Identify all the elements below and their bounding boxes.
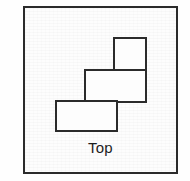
figure-caption: Top (23, 140, 178, 156)
middle-rectangle (85, 70, 146, 102)
screenshot-canvas: Top (0, 0, 190, 181)
lower-left-rectangle (56, 101, 117, 131)
upper-right-square (114, 38, 146, 70)
